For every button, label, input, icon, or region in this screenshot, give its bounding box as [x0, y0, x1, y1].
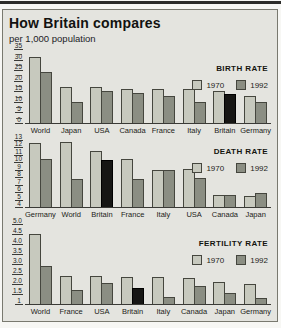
- fertility-rate-chart: 5.04.54.03.53.02.52.01.51FERTILITY RATE1…: [9, 225, 271, 316]
- bar-fertility-rate-italy-1992: [163, 297, 175, 304]
- x-label-germany: Germany: [240, 305, 271, 316]
- how-britain-compares-panel: How Britain compares per 1,000 populatio…: [2, 9, 278, 322]
- fertility-rate-group-france: [56, 225, 87, 304]
- x-label-britain: Britain: [209, 124, 240, 135]
- x-label-britain: Britain: [117, 305, 148, 316]
- bar-death-rate-japan-1992: [255, 193, 267, 207]
- death-rate-y-axis: 13121110987654: [9, 141, 25, 208]
- death-rate-chart: 13121110987654DEATH RATE19701992GermanyW…: [9, 141, 271, 219]
- fertility-rate-group-world: [25, 225, 56, 304]
- y-tick-label: 2.0: [12, 277, 23, 285]
- y-tick-label: 4.0: [12, 237, 23, 245]
- y-minor-tick: [16, 54, 22, 55]
- y-minor-tick: [16, 65, 22, 66]
- legend-label-1970: 1970: [206, 164, 224, 173]
- fertility-rate-legend: FERTILITY RATE19701992: [192, 239, 268, 265]
- y-minor-tick: [16, 97, 22, 98]
- 1970-swatch-icon: [192, 255, 202, 265]
- bar-fertility-rate-japan-1992: [224, 293, 236, 304]
- x-label-canada: Canada: [179, 305, 210, 316]
- x-label-world: World: [56, 208, 87, 219]
- fertility-rate-x-axis-labels: WorldFranceUSABritainItalyCanadaJapanGer…: [25, 305, 271, 316]
- death-rate-group-world: [56, 141, 87, 207]
- death-rate-group-france: [117, 141, 148, 207]
- birth-rate-plot-area: BIRTH RATE19701992: [25, 50, 271, 124]
- death-rate-plot-area: DEATH RATE19701992: [25, 141, 271, 208]
- birth-rate-chart: 35302520151050BIRTH RATE19701992WorldJap…: [9, 50, 271, 135]
- fertility-rate-group-britain: [117, 225, 148, 304]
- 1992-swatch-icon: [236, 80, 246, 90]
- x-label-france: France: [117, 208, 148, 219]
- death-rate-group-italy: [148, 141, 179, 207]
- top-rule: [0, 1, 281, 4]
- bar-birth-rate-world-1992: [40, 72, 52, 123]
- y-tick-label: 1: [15, 297, 23, 305]
- legend-item-1970: 1970: [192, 163, 224, 173]
- bar-fertility-rate-britain-1992: [132, 288, 144, 304]
- death-rate-legend: DEATH RATE19701992: [192, 147, 268, 173]
- 1992-swatch-icon: [236, 163, 246, 173]
- x-label-japan: Japan: [240, 208, 271, 219]
- death-rate-group-britain: [87, 141, 118, 207]
- x-label-britain: Britain: [87, 208, 118, 219]
- bar-death-rate-germany-1992: [40, 159, 52, 207]
- bar-death-rate-usa-1992: [194, 178, 206, 207]
- bar-death-rate-world-1992: [71, 179, 83, 207]
- x-label-italy: Italy: [179, 124, 210, 135]
- x-label-usa: USA: [86, 124, 117, 135]
- bar-fertility-rate-world-1992: [40, 266, 52, 304]
- bar-birth-rate-britain-1992: [224, 94, 236, 123]
- birth-rate-group-japan: [56, 50, 87, 123]
- bar-death-rate-britain-1992: [101, 160, 113, 207]
- bar-birth-rate-canada-1992: [132, 93, 144, 123]
- legend-item-1970: 1970: [192, 255, 224, 265]
- legend-item-1970: 1970: [192, 80, 224, 90]
- y-tick-label: 3.0: [12, 257, 23, 265]
- legend-item-1992: 1992: [236, 163, 268, 173]
- x-label-canada: Canada: [210, 208, 241, 219]
- birth-rate-group-usa: [87, 50, 118, 123]
- 1970-swatch-icon: [192, 163, 202, 173]
- fertility-rate-group-italy: [148, 225, 179, 304]
- legend-label-1970: 1970: [206, 81, 224, 90]
- birth-rate-group-world: [25, 50, 56, 123]
- fertility-rate-y-axis: 5.04.54.03.53.02.52.01.51: [9, 225, 25, 305]
- legend-label-1992: 1992: [250, 256, 268, 265]
- birth-rate-legend: BIRTH RATE19701992: [192, 64, 268, 90]
- death-rate-x-axis-labels: GermanyWorldBritainFranceItalyUSACanadaJ…: [25, 208, 271, 219]
- x-label-usa: USA: [86, 305, 117, 316]
- x-label-japan: Japan: [209, 305, 240, 316]
- y-minor-tick: [16, 86, 22, 87]
- bar-fertility-rate-canada-1992: [194, 286, 206, 304]
- legend-item-1992: 1992: [236, 80, 268, 90]
- x-label-japan: Japan: [56, 124, 87, 135]
- bar-birth-rate-germany-1992: [255, 102, 267, 123]
- x-label-canada: Canada: [117, 124, 148, 135]
- y-minor-tick: [16, 118, 22, 119]
- birth-rate-y-axis: 35302520151050: [9, 50, 25, 124]
- legend-label-1992: 1992: [250, 164, 268, 173]
- 1970-swatch-icon: [192, 80, 202, 90]
- death-rate-title: DEATH RATE: [192, 147, 268, 156]
- x-label-france: France: [56, 305, 87, 316]
- y-tick-label: 4.5: [12, 227, 23, 235]
- bar-death-rate-italy-1992: [163, 170, 175, 207]
- x-label-world: World: [25, 305, 56, 316]
- y-tick-label: 4: [15, 200, 23, 208]
- x-label-germany: Germany: [240, 124, 271, 135]
- legend-label-1992: 1992: [250, 81, 268, 90]
- bar-death-rate-canada-1992: [224, 195, 236, 207]
- x-label-france: France: [148, 124, 179, 135]
- bar-birth-rate-usa-1992: [101, 91, 113, 123]
- y-tick-label: 35: [14, 42, 23, 50]
- y-tick-label: 1.5: [12, 287, 23, 295]
- page-subtitle: per 1,000 population: [9, 33, 271, 44]
- birth-rate-title: BIRTH RATE: [192, 64, 268, 73]
- bar-death-rate-france-1992: [132, 179, 144, 207]
- bar-birth-rate-france-1992: [163, 96, 175, 123]
- fertility-rate-title: FERTILITY RATE: [192, 239, 268, 248]
- x-label-world: World: [25, 124, 56, 135]
- legend-item-1992: 1992: [236, 255, 268, 265]
- y-minor-tick: [16, 107, 22, 108]
- page-title: How Britain compares: [9, 15, 271, 31]
